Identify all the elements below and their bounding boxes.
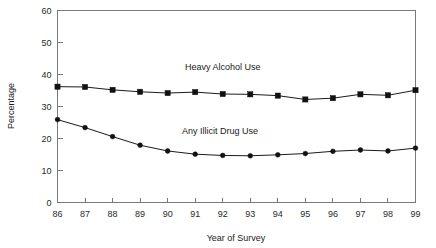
y-tick-label: 30 — [41, 102, 51, 112]
data-point — [55, 84, 60, 89]
data-point — [110, 87, 115, 92]
data-point — [165, 90, 170, 95]
x-axis-ticks: 8687888990919293949596979899 — [52, 198, 420, 219]
data-point — [55, 117, 60, 122]
data-point — [165, 149, 170, 154]
data-point — [275, 152, 280, 157]
x-tick-label: 95 — [300, 209, 310, 219]
series-1 — [55, 84, 418, 102]
y-tick-label: 50 — [41, 38, 51, 48]
x-tick-label: 86 — [52, 209, 62, 219]
x-tick-label: 98 — [383, 209, 393, 219]
chart-container: 6050403020100 86878889909192939495969798… — [0, 0, 436, 248]
x-tick-label: 96 — [328, 209, 338, 219]
data-point — [413, 88, 418, 93]
data-point — [193, 152, 198, 157]
x-tick-label: 90 — [163, 209, 173, 219]
data-point — [303, 151, 308, 156]
series-label: Any Illicit Drug Use — [182, 126, 258, 136]
x-tick-label: 89 — [135, 209, 145, 219]
y-tick-label: 10 — [41, 166, 51, 176]
y-tick-label: 20 — [41, 134, 51, 144]
data-point — [330, 96, 335, 101]
x-tick-label: 87 — [80, 209, 90, 219]
data-point — [82, 84, 87, 89]
x-tick-label: 91 — [190, 209, 200, 219]
series-2 — [55, 117, 418, 158]
x-tick-label: 94 — [273, 209, 283, 219]
data-point — [220, 153, 225, 158]
data-point — [220, 91, 225, 96]
data-point — [193, 90, 198, 95]
data-point — [330, 149, 335, 154]
data-point — [248, 153, 253, 158]
data-point — [303, 97, 308, 102]
x-axis-title: Year of Survey — [207, 233, 266, 243]
data-point — [248, 92, 253, 97]
data-point — [413, 146, 418, 151]
data-point — [138, 89, 143, 94]
series-layer — [55, 84, 418, 158]
y-axis-title: Percentage — [6, 83, 16, 129]
x-tick-label: 97 — [355, 209, 365, 219]
data-point — [358, 92, 363, 97]
data-point — [110, 134, 115, 139]
x-tick-label: 99 — [410, 209, 420, 219]
plot-frame — [58, 11, 416, 203]
data-point — [138, 143, 143, 148]
y-tick-label: 0 — [46, 198, 51, 208]
series-label: Heavy Alcohol Use — [185, 62, 261, 72]
y-axis-ticks: 6050403020100 — [41, 6, 62, 208]
data-point — [83, 125, 88, 130]
series-annotations: Heavy Alcohol UseAny Illicit Drug Use — [182, 62, 261, 136]
data-point — [358, 148, 363, 153]
y-tick-label: 40 — [41, 70, 51, 80]
data-point — [385, 93, 390, 98]
axes-frame — [58, 11, 416, 203]
x-tick-label: 93 — [245, 209, 255, 219]
x-tick-label: 92 — [218, 209, 228, 219]
x-tick-label: 88 — [108, 209, 118, 219]
data-point — [386, 149, 391, 154]
data-point — [275, 93, 280, 98]
y-tick-label: 60 — [41, 6, 51, 16]
line-chart: 6050403020100 86878889909192939495969798… — [0, 0, 436, 248]
